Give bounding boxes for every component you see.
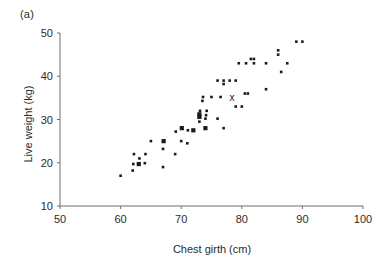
x-axis-ticks: 5060708090100 — [54, 206, 372, 225]
data-point — [191, 128, 195, 132]
data-point — [144, 153, 147, 156]
data-point — [280, 71, 283, 74]
x-tick-label: 60 — [114, 213, 126, 225]
data-point — [180, 140, 183, 143]
data-point — [199, 110, 202, 113]
data-point — [277, 49, 280, 52]
y-tick-label: 40 — [41, 70, 53, 82]
data-point — [202, 96, 205, 99]
data-point — [234, 79, 237, 82]
data-point — [197, 112, 201, 116]
data-point — [162, 166, 165, 169]
y-tick-label: 10 — [41, 200, 53, 212]
data-point — [174, 130, 177, 133]
x-tick-label: 50 — [54, 213, 66, 225]
data-point — [295, 40, 298, 43]
data-point — [131, 169, 134, 172]
data-point — [132, 163, 135, 166]
y-axis-ticks: 1020304050 — [41, 27, 60, 212]
data-point — [228, 79, 231, 82]
data-point — [201, 100, 204, 103]
data-point — [234, 105, 237, 108]
y-tick-label: 50 — [41, 27, 53, 39]
data-point — [186, 142, 189, 145]
data-point — [301, 40, 304, 43]
data-point — [222, 83, 225, 86]
data-point — [245, 62, 248, 65]
data-point — [174, 153, 177, 156]
y-tick-label: 20 — [41, 157, 53, 169]
data-point — [137, 162, 141, 166]
data-point — [265, 88, 268, 91]
data-point — [162, 139, 166, 143]
data-point — [138, 157, 141, 160]
x-tick-label: 70 — [175, 213, 187, 225]
data-point — [237, 62, 240, 65]
x-tick-label: 100 — [354, 213, 372, 225]
annotations: x — [230, 92, 235, 103]
data-point — [205, 110, 208, 113]
x-tick-label: 80 — [236, 213, 248, 225]
data-point — [219, 96, 222, 99]
data-point — [253, 58, 256, 61]
data-point — [162, 148, 165, 151]
y-tick-label: 30 — [41, 114, 53, 126]
data-point — [265, 62, 268, 65]
data-point — [277, 53, 280, 56]
data-point — [205, 114, 208, 117]
data-point — [250, 58, 253, 61]
data-point — [216, 79, 219, 82]
data-point — [133, 153, 136, 156]
x-tick-label: 90 — [296, 213, 308, 225]
data-point — [187, 129, 190, 132]
figure-panel-a: (a) Live weight (kg) Chest girth (cm) 50… — [0, 0, 387, 268]
data-point — [144, 162, 147, 165]
axes — [60, 33, 363, 206]
scatter-plot: 5060708090100 1020304050 x — [0, 0, 387, 268]
data-point — [119, 174, 122, 177]
data-point — [222, 127, 225, 130]
data-point — [203, 126, 207, 130]
data-point — [247, 92, 250, 95]
data-point — [286, 62, 289, 65]
data-point — [244, 92, 247, 95]
data-point — [222, 79, 225, 82]
data-point — [210, 96, 213, 99]
data-point — [253, 62, 256, 65]
data-point — [204, 117, 207, 120]
data-point — [216, 117, 219, 120]
data-point — [241, 105, 244, 108]
annotation-cross-marker: x — [230, 92, 235, 103]
data-point — [198, 120, 201, 123]
data-point — [180, 126, 184, 130]
data-point — [150, 140, 153, 143]
data-points — [119, 40, 303, 177]
